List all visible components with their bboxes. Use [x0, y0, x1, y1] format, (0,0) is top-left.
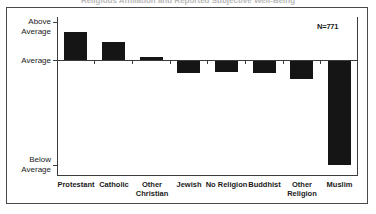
y-axis-label-above-average: Above Average — [21, 17, 51, 36]
sample-size-annotation: N=771 — [317, 22, 338, 31]
x-tick — [94, 61, 95, 64]
chart-title-text: Religious Affiliation and Reported Subje… — [0, 0, 376, 5]
bar-jewish — [177, 61, 200, 73]
bar-protestant — [64, 32, 87, 60]
bar-other-christian — [140, 57, 163, 60]
x-tick — [320, 61, 321, 64]
chart-title-clipped: Religious Affiliation and Reported Subje… — [0, 0, 376, 6]
bar-catholic — [102, 42, 125, 60]
bar-other-religion — [290, 61, 313, 79]
bar-buddhist — [253, 61, 276, 73]
bar-muslim — [328, 61, 351, 165]
x-axis-label-muslim: Muslim — [317, 180, 362, 189]
x-tick — [207, 61, 208, 64]
y-tick-above-average — [53, 22, 58, 23]
chart-figure: Religious Affiliation and Reported Subje… — [0, 0, 376, 214]
y-axis-label-average: Average — [21, 56, 51, 66]
y-tick-below-average — [53, 165, 58, 166]
x-tick — [132, 61, 133, 64]
y-axis-label-below-average: Below Average — [21, 155, 51, 174]
plot-area — [57, 17, 358, 176]
x-tick — [283, 61, 284, 64]
x-tick — [245, 61, 246, 64]
x-tick — [170, 61, 171, 64]
bar-no-religion — [215, 61, 238, 72]
y-tick-average — [53, 60, 58, 61]
